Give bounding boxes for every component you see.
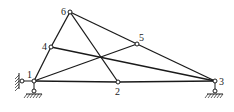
labels: 1 2 3 4 5 6 [27, 6, 224, 97]
label-node-2: 2 [115, 86, 120, 97]
member-4-3 [51, 47, 215, 81]
member-6-2 [70, 12, 118, 82]
joint-3 [213, 79, 217, 83]
truss-diagram: 1 2 3 4 5 6 [0, 0, 234, 112]
joint-1 [32, 79, 36, 83]
label-node-5: 5 [139, 32, 144, 43]
joint-6 [68, 10, 72, 14]
joint-2 [116, 80, 120, 84]
members [34, 12, 215, 82]
label-node-4: 4 [42, 41, 47, 52]
member-2-3 [118, 81, 215, 82]
member-1-2 [34, 81, 118, 82]
joint-4 [49, 45, 53, 49]
label-node-1: 1 [27, 69, 32, 80]
label-node-3: 3 [219, 76, 224, 87]
label-node-6: 6 [61, 6, 66, 17]
member-6-5 [70, 12, 137, 44]
joints [32, 10, 217, 84]
member-5-3 [137, 44, 215, 81]
member-4-6 [51, 12, 70, 47]
